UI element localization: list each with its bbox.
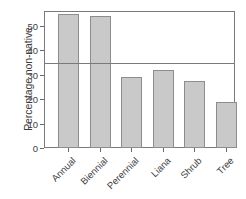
bar-perennial [121, 77, 142, 148]
reference-line-35 [44, 63, 235, 64]
y-tick-mark-0 [40, 148, 44, 149]
bar-tree [216, 102, 237, 148]
y-tick-label-30: 30 [20, 71, 38, 81]
y-tick-label-20: 20 [20, 95, 38, 105]
y-axis-tick-labels: 0 10 20 30 40 50 [18, 0, 38, 199]
x-tick-mark-annual [68, 148, 69, 152]
x-tick-mark-tree [226, 148, 227, 152]
x-tick-mark-perennial [131, 148, 132, 152]
bar-liana [153, 70, 174, 148]
bar-shrub [184, 81, 205, 148]
y-tick-label-0: 0 [20, 144, 38, 154]
bar-annual [58, 14, 79, 148]
x-tick-mark-liana [163, 148, 164, 152]
y-tick-label-50: 50 [20, 22, 38, 32]
bar-chart: Percentage non-native 0 10 20 30 40 50 A… [0, 0, 246, 199]
y-tick-label-10: 10 [20, 120, 38, 130]
x-tick-mark-shrub [194, 148, 195, 152]
bar-biennial [90, 16, 111, 148]
y-tick-label-40: 40 [20, 46, 38, 56]
x-tick-mark-biennial [100, 148, 101, 152]
